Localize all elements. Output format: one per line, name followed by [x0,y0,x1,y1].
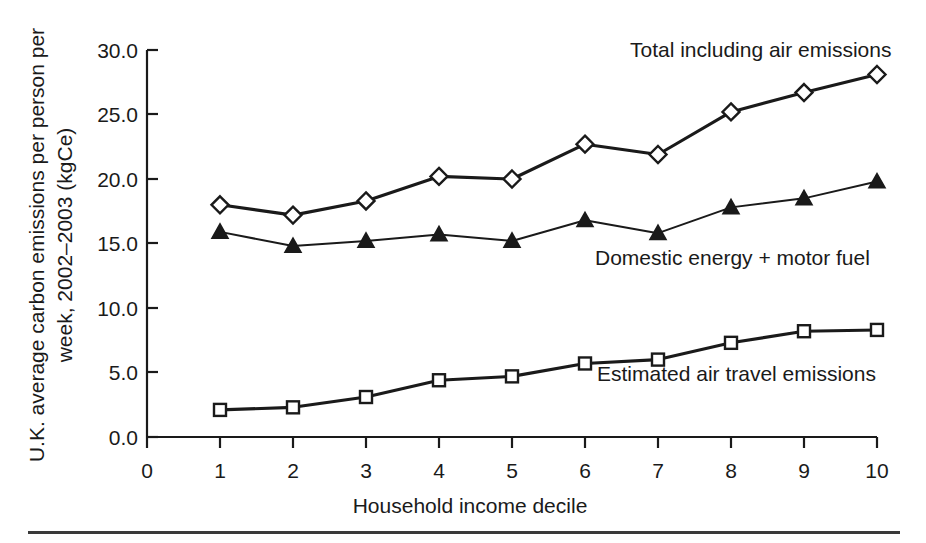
x-tick-label: 5 [506,459,518,482]
x-tick-label: 3 [360,459,372,482]
y-tick-label: 0.0 [109,426,138,449]
y-axis-title-line1: U.K. average carbon emissions per person… [25,28,48,462]
y-axis-title-line2: week, 2002–2003 (kgCe) [53,128,76,364]
series-label-domestic-energy-motor-fuel: Domestic energy + motor fuel [595,246,870,269]
x-tick-label: 0 [141,459,153,482]
series-label-total-including-air-emissions: Total including air emissions [630,38,891,61]
x-tick-label: 1 [214,459,226,482]
bottom-divider-rule [28,531,900,534]
x-tick-label: 7 [652,459,664,482]
x-tick-label: 6 [579,459,591,482]
data-point-marker-square [798,325,810,337]
chart-background [0,0,926,543]
data-point-marker-square [214,404,226,416]
data-point-marker-square [433,374,445,386]
data-point-marker-square [287,401,299,413]
y-tick-label: 20.0 [97,168,138,191]
x-axis-title: Household income decile [353,494,588,517]
y-tick-label: 5.0 [109,361,138,384]
y-tick-label: 25.0 [97,103,138,126]
data-point-marker-square [579,357,591,369]
series-label-estimated-air-travel-emissions: Estimated air travel emissions [597,362,876,385]
y-tick-label: 30.0 [97,39,138,62]
chart-figure: U.K. average carbon emissions per person… [0,0,926,543]
data-point-marker-square [725,337,737,349]
x-tick-label: 8 [725,459,737,482]
data-point-marker-square [360,391,372,403]
y-tick-label: 10.0 [97,297,138,320]
x-tick-label: 2 [287,459,299,482]
x-tick-label: 10 [865,459,888,482]
x-tick-label: 9 [798,459,810,482]
data-point-marker-square [506,370,518,382]
y-tick-label: 15.0 [97,232,138,255]
data-point-marker-square [871,324,883,336]
line-chart-canvas: U.K. average carbon emissions per person… [0,0,926,543]
x-tick-label: 4 [433,459,445,482]
